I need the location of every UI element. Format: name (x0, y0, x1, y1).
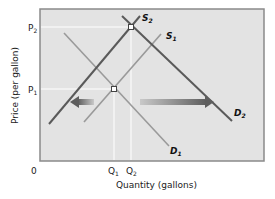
origin-label: 0 (31, 166, 37, 176)
supply-demand-diagram: S2 S1 D2 D1 P2 P1 0 Q1 Q2 Quantity (gall… (0, 0, 275, 199)
quantity-q1-label: Q1 (108, 166, 119, 177)
x-axis-title: Quantity (gallons) (116, 180, 197, 190)
plot-area (40, 9, 264, 161)
equilibrium-point-2 (129, 25, 134, 30)
price-p2-label: P2 (28, 23, 37, 34)
y-axis-title: Price (per gallon) (10, 47, 20, 124)
price-p1-label: P1 (28, 85, 37, 96)
equilibrium-point-1 (112, 87, 117, 92)
quantity-q2-label: Q2 (126, 166, 137, 177)
